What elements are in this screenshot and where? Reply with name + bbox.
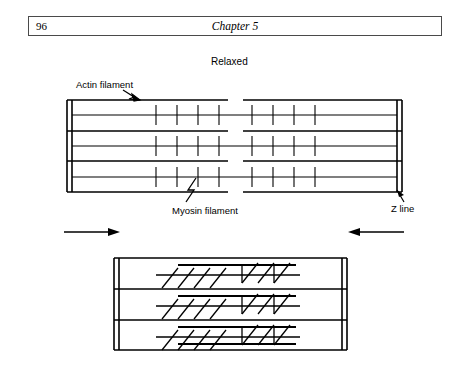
page-header-rule: 96 Chapter 5 bbox=[28, 16, 442, 36]
myosin-filament-label: Myosin filament bbox=[172, 205, 238, 217]
crossbridges-row2-left bbox=[156, 136, 219, 156]
z-line-label: Z line bbox=[391, 203, 414, 215]
actin-filaments-relaxed bbox=[67, 100, 402, 192]
chapter-title: Chapter 5 bbox=[29, 19, 441, 34]
crossbridges-angled-row1 bbox=[162, 263, 290, 288]
crossbridges-angled-row2 bbox=[162, 294, 290, 319]
myosin-filaments-contracted bbox=[156, 263, 300, 350]
contraction-arrow-right-icon bbox=[348, 228, 404, 236]
myosin-filaments-relaxed bbox=[72, 105, 397, 187]
myosin-leader-icon bbox=[186, 178, 196, 202]
z-line-right bbox=[397, 100, 402, 192]
crossbridges-row3-left bbox=[156, 167, 219, 187]
crossbridges-row3-right bbox=[252, 167, 315, 187]
crossbridges-angled-row3 bbox=[162, 325, 290, 350]
crossbridges-row2-right bbox=[252, 136, 315, 156]
relaxed-sarcomere-group bbox=[67, 90, 404, 202]
crossbridges-row1-right bbox=[252, 105, 315, 125]
actin-overlap-bars bbox=[178, 265, 296, 344]
actin-filaments-contracted bbox=[114, 258, 347, 350]
contracted-sarcomere-group bbox=[114, 258, 347, 350]
z-line-left-contracted bbox=[114, 258, 119, 350]
actin-leader-icon bbox=[123, 90, 140, 101]
z-line-right-contracted bbox=[342, 258, 347, 350]
zline-leader-icon bbox=[397, 190, 404, 202]
contraction-arrow-left-icon bbox=[64, 228, 120, 236]
crossbridges-row1-left bbox=[156, 105, 219, 125]
relaxed-state-label: Relaxed bbox=[211, 56, 248, 68]
contraction-arrows bbox=[64, 228, 404, 236]
z-line-left bbox=[67, 100, 72, 192]
actin-filament-label: Actin filament bbox=[76, 79, 133, 91]
